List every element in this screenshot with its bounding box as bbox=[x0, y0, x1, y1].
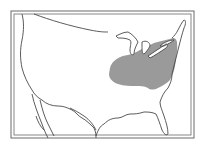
map-figure bbox=[0, 0, 204, 149]
us-map bbox=[0, 0, 204, 149]
